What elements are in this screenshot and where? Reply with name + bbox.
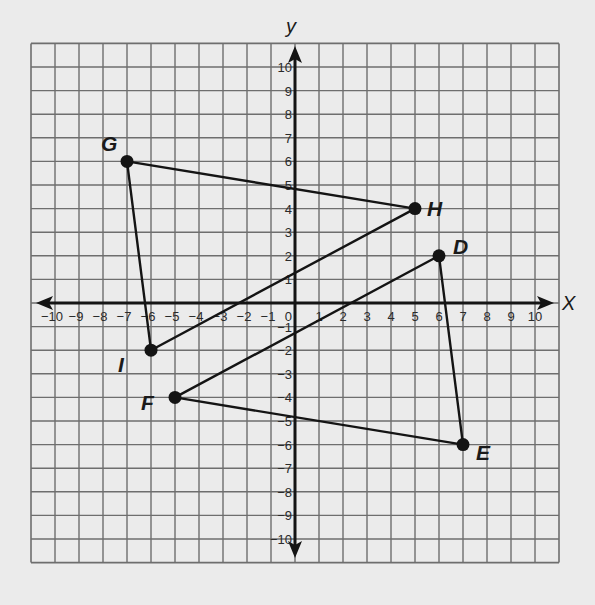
y-tick-label: −3 xyxy=(277,367,292,382)
x-tick-label: −10 xyxy=(41,309,63,324)
y-tick-label: 5 xyxy=(285,178,292,193)
x-tick-label: −8 xyxy=(93,309,108,324)
y-tick-label: 3 xyxy=(285,225,292,240)
x-tick-label: 4 xyxy=(387,309,394,324)
x-tick-label: −1 xyxy=(261,309,276,324)
x-tick-label: 6 xyxy=(435,309,442,324)
y-tick-label: 10 xyxy=(278,60,292,75)
y-tick-label: 2 xyxy=(285,249,292,264)
y-tick-label: −10 xyxy=(270,532,292,547)
point-g xyxy=(121,155,134,168)
y-tick-label: −4 xyxy=(277,390,292,405)
point-i xyxy=(145,344,158,357)
y-tick-label: −8 xyxy=(277,485,292,500)
y-tick-label: 6 xyxy=(285,154,292,169)
point-label-d: D xyxy=(453,235,468,258)
x-tick-label: −9 xyxy=(69,309,84,324)
x-tick-label: 10 xyxy=(528,309,542,324)
y-tick-label: −9 xyxy=(277,508,292,523)
point-e xyxy=(457,438,470,451)
x-tick-label: 7 xyxy=(459,309,466,324)
point-label-e: E xyxy=(476,441,491,464)
y-tick-label: 4 xyxy=(285,202,292,217)
x-tick-label: 3 xyxy=(363,309,370,324)
point-d xyxy=(433,249,446,262)
x-tick-label: 8 xyxy=(483,309,490,324)
y-tick-label: 8 xyxy=(285,107,292,122)
x-tick-label: −7 xyxy=(117,309,132,324)
point-label-f: F xyxy=(141,391,155,414)
point-f xyxy=(169,391,182,404)
y-tick-label: 9 xyxy=(285,84,292,99)
coordinate-plane: −10−9−8−7−6−5−4−3−2−11234567891010987654… xyxy=(0,0,595,605)
x-tick-label: −5 xyxy=(165,309,180,324)
point-h xyxy=(409,202,422,215)
y-axis-label: y xyxy=(284,15,297,37)
y-tick-label: −6 xyxy=(277,438,292,453)
x-tick-label: 5 xyxy=(411,309,418,324)
point-label-g: G xyxy=(101,132,117,155)
origin-label: 0 xyxy=(285,309,292,324)
x-tick-label: 9 xyxy=(507,309,514,324)
y-tick-label: −2 xyxy=(277,343,292,358)
point-label-h: H xyxy=(427,197,443,220)
x-tick-label: −2 xyxy=(237,309,252,324)
y-tick-label: −7 xyxy=(277,461,292,476)
y-tick-label: 7 xyxy=(285,131,292,146)
x-tick-label: −4 xyxy=(189,309,204,324)
x-tick-label: 2 xyxy=(339,309,346,324)
x-axis-label: X xyxy=(561,292,576,314)
